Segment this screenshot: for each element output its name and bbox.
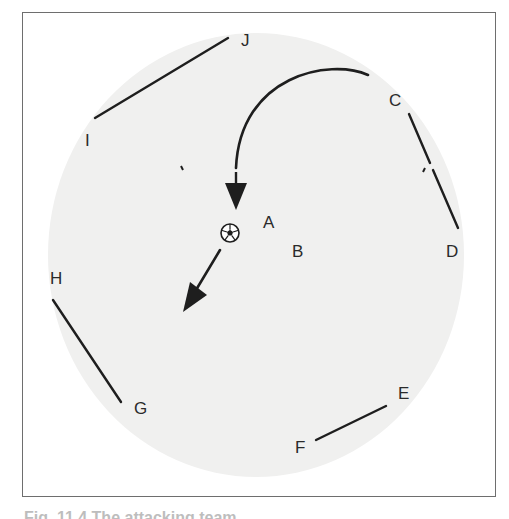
label-c: C xyxy=(389,91,401,110)
tactical-diagram: JICABDHGEF xyxy=(0,0,509,519)
soccer-ball-icon xyxy=(221,224,239,242)
label-a: A xyxy=(263,213,275,232)
label-d: D xyxy=(446,242,458,261)
label-h: H xyxy=(50,269,62,288)
field-circle xyxy=(48,33,464,477)
label-i: I xyxy=(85,131,90,150)
label-j: J xyxy=(241,31,250,50)
label-e: E xyxy=(398,384,409,403)
label-g: G xyxy=(134,399,147,418)
label-f: F xyxy=(295,438,305,457)
label-b: B xyxy=(292,242,303,261)
figure-caption: Fig. 11.4 The attacking team xyxy=(24,510,237,519)
